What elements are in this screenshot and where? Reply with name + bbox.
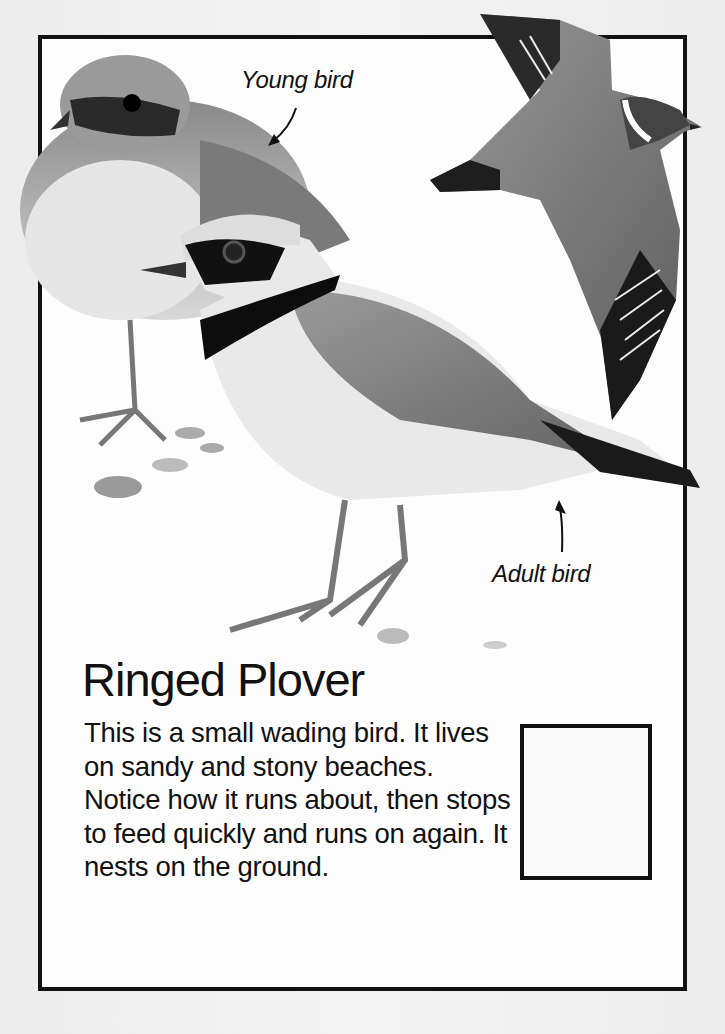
young-bird-label: Young bird: [241, 66, 353, 94]
card-description: This is a small wading bird. It lives on…: [84, 716, 514, 884]
adult-bird-label: Adult bird: [492, 560, 590, 588]
card-title: Ringed Plover: [82, 652, 364, 707]
page-background: Young bird Adult bird Ringed Plover This…: [0, 0, 725, 1034]
adult-bird-arrow-icon: [560, 508, 562, 552]
spotted-tickbox[interactable]: [520, 724, 652, 880]
